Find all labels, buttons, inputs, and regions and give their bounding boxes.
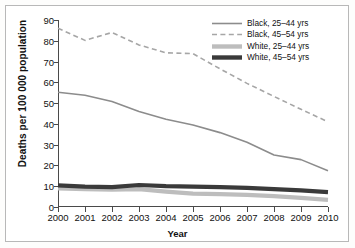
legend-label: Black, 45–54 yrs bbox=[247, 30, 308, 39]
x-tick-label: 2007 bbox=[236, 212, 257, 223]
legend-swatch-icon bbox=[212, 53, 242, 62]
x-tick-label: 2001 bbox=[74, 212, 95, 223]
x-tick-mark bbox=[85, 207, 86, 212]
y-tick-label: 20 bbox=[43, 160, 54, 171]
y-tick-label: 30 bbox=[43, 139, 54, 150]
figure-container: Deaths per 100 000 population Year 01020… bbox=[0, 0, 355, 248]
y-tick-label: 50 bbox=[43, 98, 54, 109]
x-tick-mark bbox=[220, 207, 221, 212]
y-tick-label: 80 bbox=[43, 35, 54, 46]
x-tick-mark bbox=[193, 207, 194, 212]
legend-swatch-icon bbox=[212, 42, 242, 51]
legend-item: White, 45–54 yrs bbox=[212, 53, 352, 63]
y-axis-title: Deaths per 100 000 population bbox=[17, 9, 28, 179]
x-tick-mark bbox=[112, 207, 113, 212]
x-tick-mark bbox=[328, 207, 329, 212]
x-tick-mark bbox=[139, 207, 140, 212]
x-tick-label: 2009 bbox=[290, 212, 311, 223]
legend-item: Black, 45–54 yrs bbox=[212, 30, 352, 40]
x-tick-mark bbox=[166, 207, 167, 212]
x-tick-mark bbox=[274, 207, 275, 212]
x-tick-label: 2005 bbox=[182, 212, 203, 223]
y-tick-label: 70 bbox=[43, 56, 54, 67]
x-tick-label: 2004 bbox=[155, 212, 176, 223]
x-tick-mark bbox=[247, 207, 248, 212]
x-tick-label: 2003 bbox=[128, 212, 149, 223]
y-tick-label: 90 bbox=[43, 15, 54, 26]
x-axis-title: Year bbox=[0, 228, 355, 239]
legend-swatch-icon bbox=[212, 19, 242, 28]
legend-label: White, 25–44 yrs bbox=[247, 42, 309, 51]
x-tick-mark bbox=[301, 207, 302, 212]
x-tick-label: 2002 bbox=[101, 212, 122, 223]
y-tick-label: 10 bbox=[43, 181, 54, 192]
y-tick-label: 60 bbox=[43, 77, 54, 88]
x-tick-mark bbox=[58, 207, 59, 212]
legend-label: Black, 25–44 yrs bbox=[247, 19, 308, 28]
x-tick-label: 2010 bbox=[317, 212, 338, 223]
y-tick-label: 40 bbox=[43, 118, 54, 129]
x-tick-label: 2006 bbox=[209, 212, 230, 223]
x-tick-label: 2008 bbox=[263, 212, 284, 223]
legend-label: White, 45–54 yrs bbox=[247, 53, 309, 62]
series-line bbox=[58, 92, 328, 171]
chart-legend: Black, 25–44 yrsBlack, 45–54 yrsWhite, 2… bbox=[212, 19, 352, 64]
legend-item: White, 25–44 yrs bbox=[212, 41, 352, 51]
legend-swatch-icon bbox=[212, 30, 242, 39]
x-tick-label: 2000 bbox=[47, 212, 68, 223]
legend-item: Black, 25–44 yrs bbox=[212, 19, 352, 29]
